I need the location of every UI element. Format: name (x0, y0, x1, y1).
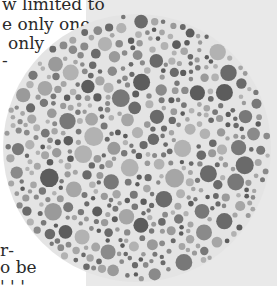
plate-dot (226, 112, 231, 117)
plate-dot (160, 134, 165, 139)
plate-dot (191, 187, 196, 192)
plate-dot (133, 50, 143, 60)
plate-dot (129, 242, 139, 252)
plate-dot (161, 152, 166, 157)
plate-dot (36, 95, 41, 100)
plate-dot (144, 121, 151, 128)
plate-dot (197, 150, 207, 160)
plate-dot (179, 225, 184, 230)
plate-dot (26, 103, 35, 112)
plate-dot (139, 276, 144, 281)
plate-dot (69, 45, 78, 54)
plate-dot (134, 272, 138, 276)
plate-dot (129, 72, 134, 77)
plate-dot (68, 105, 74, 111)
plate-dot (209, 59, 214, 64)
plate-dot (162, 212, 168, 218)
plate-dot (89, 162, 95, 168)
plate-dot (186, 229, 191, 234)
plate-dot (47, 145, 52, 150)
plate-dot (154, 159, 165, 170)
plate-dot (195, 57, 200, 62)
plate-dot (160, 75, 165, 80)
plate-dot (180, 111, 185, 116)
plate-dot (89, 62, 96, 69)
plate-dot (151, 18, 158, 25)
plate-dot (119, 209, 134, 224)
plate-dot (34, 194, 39, 199)
plate-dot (41, 220, 47, 226)
plate-dot (121, 15, 126, 20)
plate-dot (81, 253, 86, 258)
plate-dot (64, 136, 74, 146)
plate-dot (17, 202, 23, 208)
plate-dot (172, 87, 179, 94)
plate-dot (159, 240, 165, 246)
plate-dot (94, 219, 99, 224)
plate-dot (22, 194, 29, 201)
plate-dot (98, 37, 112, 51)
plate-dot (135, 31, 142, 38)
plate-dot (170, 23, 176, 29)
plate-dot (79, 221, 83, 225)
plate-dot (52, 73, 59, 80)
plate-dot (146, 208, 150, 212)
plate-dot (66, 181, 82, 197)
plate-dot (11, 115, 16, 120)
plate-dot (20, 187, 25, 192)
plate-dot (16, 127, 22, 133)
plate-dot (15, 105, 19, 109)
plate-dot (72, 215, 77, 220)
plate-dot (167, 226, 176, 235)
plate-dot (143, 185, 151, 193)
plate-dot (182, 166, 187, 171)
plate-dot (220, 65, 236, 81)
plate-dot (76, 140, 81, 145)
plate-dot (84, 127, 103, 146)
plate-dot (60, 42, 68, 50)
plate-dot (61, 131, 66, 136)
plate-dot (115, 227, 120, 232)
plate-dot (215, 162, 220, 167)
plate-dot (96, 259, 102, 265)
plate-dot (239, 127, 244, 132)
plate-dot (92, 207, 102, 217)
plate-dot (256, 121, 261, 126)
plate-dot (65, 171, 71, 177)
plate-dot (117, 111, 122, 116)
plate-dot (67, 156, 74, 163)
plate-dot (84, 245, 89, 250)
plate-dot (151, 222, 156, 227)
plate-dot (109, 131, 114, 136)
ishihara-plate-image (2, 13, 272, 283)
plate-dot (253, 90, 258, 95)
plate-dot (132, 127, 143, 138)
plate-dot (118, 238, 122, 242)
plate-dot (149, 46, 155, 52)
plate-dot (166, 267, 171, 272)
plate-dot (161, 20, 166, 25)
plate-dot (161, 68, 166, 73)
plate-dot (34, 163, 41, 170)
plate-dot (243, 71, 248, 76)
plate-dot (186, 29, 195, 38)
plate-dot (139, 235, 145, 241)
plate-dot (204, 113, 209, 118)
plate-dot (172, 51, 177, 56)
plate-dot (8, 180, 14, 186)
plate-dot (196, 244, 201, 249)
plate-dot (171, 210, 176, 215)
plate-dot (146, 152, 151, 157)
plate-dot (57, 244, 64, 251)
plate-dot (133, 74, 150, 91)
plate-dot (14, 191, 19, 196)
plate-dot (246, 213, 251, 218)
plate-dot (249, 147, 254, 152)
plate-dot (128, 102, 141, 115)
plate-dot (210, 206, 214, 210)
plate-dot (77, 103, 82, 108)
plate-dot (168, 97, 174, 103)
plate-dot (133, 218, 148, 233)
plate-dot (105, 23, 113, 31)
plate-dot (143, 262, 149, 268)
